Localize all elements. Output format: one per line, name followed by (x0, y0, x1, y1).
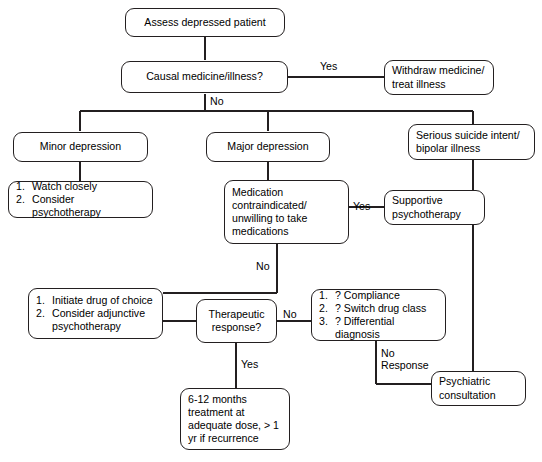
list-item-text: Initiate drug of choice (52, 294, 155, 307)
edge-label-therapeutic-no: No (283, 308, 297, 320)
flowchart-canvas: Assess depressed patient Causal medicine… (0, 0, 542, 462)
node-compliance-checklist[interactable]: 1. ? Compliance 2. ? Switch drug class 3… (311, 289, 446, 341)
list-item-number: 3. (319, 315, 335, 328)
node-maintenance-line1: 6-12 months (181, 393, 289, 406)
list-item-number: 1. (319, 289, 335, 302)
node-assess-label: Assess depressed patient (136, 16, 273, 29)
node-withdraw-line1: Withdraw medicine/ (385, 64, 493, 77)
node-serious-suicide-intent[interactable]: Serious suicide intent/ bipolar illness (408, 124, 535, 160)
list-item: 2. Consider adjunctive psychotherapy (36, 307, 155, 333)
list-item-number: 1. (36, 294, 52, 307)
node-medication-line4: medications (225, 225, 348, 238)
edge-label-no-response-line1: No (381, 347, 395, 359)
node-withdraw-line2: treat illness (385, 78, 493, 91)
node-supportive-psychotherapy[interactable]: Supportive psychotherapy (384, 190, 485, 225)
edge-label-no-response-line2: Response (381, 359, 429, 371)
node-therapeutic-line1: Therapeutic (201, 308, 273, 321)
list-item: 1. Watch closely (16, 180, 145, 193)
node-initiate-drug-plan[interactable]: 1. Initiate drug of choice 2. Consider a… (28, 288, 163, 339)
node-withdraw-medicine[interactable]: Withdraw medicine/ treat illness (384, 60, 494, 95)
node-therapeutic-response[interactable]: Therapeutic response? (196, 299, 277, 343)
node-medication-line2: contraindicated/ (225, 199, 348, 212)
node-psychiatric-consultation[interactable]: Psychiatric consultation (431, 371, 526, 406)
node-psychiatric-line1: Psychiatric (432, 375, 525, 388)
node-maintenance-treatment[interactable]: 6-12 months treatment at adequate dose, … (180, 388, 290, 450)
node-psychiatric-line2: consultation (432, 389, 525, 402)
list-item: 3. ? Differential diagnosis (319, 315, 438, 341)
node-maintenance-line4: yr if recurrence (181, 432, 289, 445)
node-serious-line1: Serious suicide intent/ (409, 129, 534, 142)
list-item: 1. Initiate drug of choice (36, 294, 155, 307)
list-item: 2. Consider psychotherapy (16, 193, 145, 219)
list-item-number: 2. (36, 307, 52, 320)
node-supportive-line2: psychotherapy (385, 208, 484, 221)
list-item-number: 2. (16, 193, 32, 206)
node-medication-line3: unwilling to take (225, 212, 348, 225)
node-maintenance-line3: adequate dose, > 1 (181, 419, 289, 432)
node-causal-medicine-illness[interactable]: Causal medicine/illness? (121, 61, 288, 93)
list-item-text: Consider psychotherapy (32, 193, 145, 219)
list-item-text: ? Differential diagnosis (335, 315, 438, 341)
node-medication-contraindicated[interactable]: Medication contraindicated/ unwilling to… (224, 180, 349, 244)
node-medication-line1: Medication (225, 186, 348, 199)
edge-label-causal-no: No (210, 95, 224, 107)
node-serious-line2: bipolar illness (409, 142, 534, 155)
list-item: 1. ? Compliance (319, 289, 438, 302)
list-item-text: Watch closely (32, 180, 145, 193)
edge-label-therapeutic-yes: Yes (241, 358, 258, 370)
node-minor-label: Minor depression (32, 140, 129, 153)
node-causal-label: Causal medicine/illness? (138, 70, 271, 83)
node-major-depression[interactable]: Major depression (206, 132, 330, 162)
node-minor-depression[interactable]: Minor depression (13, 132, 148, 162)
list-item-number: 2. (319, 302, 335, 315)
node-assess-depressed-patient[interactable]: Assess depressed patient (125, 8, 285, 37)
list-item: 2. ? Switch drug class (319, 302, 438, 315)
edge-label-medication-yes: Yes (353, 200, 370, 212)
node-minor-depression-plan[interactable]: 1. Watch closely 2. Consider psychothera… (8, 181, 153, 218)
initiate-plan-list: 1. Initiate drug of choice 2. Consider a… (29, 294, 162, 334)
node-therapeutic-line2: response? (204, 321, 269, 334)
list-item-text: ? Switch drug class (335, 302, 438, 315)
compliance-list: 1. ? Compliance 2. ? Switch drug class 3… (312, 289, 445, 342)
list-item-number: 1. (16, 180, 32, 193)
list-item-text: Consider adjunctive psychotherapy (52, 307, 155, 333)
edge-label-causal-yes: Yes (320, 60, 337, 72)
list-item-text: ? Compliance (335, 289, 438, 302)
edge-label-medication-no: No (256, 260, 270, 272)
node-supportive-line1: Supportive (385, 194, 484, 207)
minor-plan-list: 1. Watch closely 2. Consider psychothera… (9, 180, 152, 220)
node-maintenance-line2: treatment at (181, 406, 289, 419)
node-major-label: Major depression (219, 140, 316, 153)
